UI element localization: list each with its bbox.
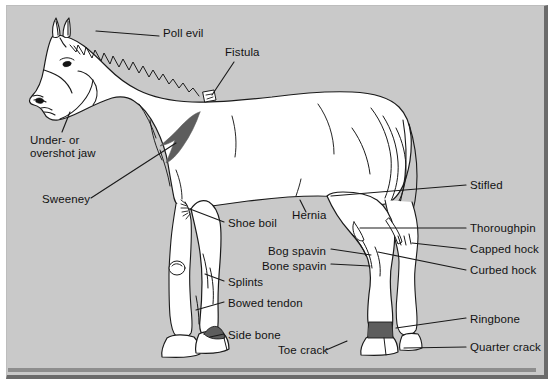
label-stifled: Stifled	[470, 179, 503, 192]
label-side-bone: Side bone	[228, 329, 281, 342]
horse-body-outline	[30, 35, 412, 209]
front-hoof-far	[162, 335, 200, 358]
label-bone-spavin: Bone spavin	[262, 260, 326, 273]
toe-crack-leader	[326, 341, 347, 350]
label-curbed-hock: Curbed hock	[470, 264, 536, 277]
sweeney-leader	[91, 143, 176, 198]
label-fistula: Fistula	[225, 46, 260, 59]
horse-ears	[53, 18, 71, 38]
label-thoroughpin: Thoroughpin	[470, 222, 536, 235]
label-shoe-boil: Shoe boil	[228, 217, 277, 230]
label-under-overshot-jaw: Under- or overshot jaw	[30, 134, 96, 160]
capped-hock-leader	[412, 243, 466, 249]
horse-unsoundness-figure: Poll evil Fistula Under- or overshot jaw…	[0, 0, 560, 392]
label-bog-spavin: Bog spavin	[268, 245, 326, 258]
label-poll-evil: Poll evil	[163, 27, 204, 40]
fistula-leader	[212, 62, 234, 95]
ringbone-dark	[368, 322, 393, 338]
label-ringbone: Ringbone	[470, 313, 520, 326]
bone-spavin-leader	[331, 264, 370, 266]
label-quarter-crack: Quarter crack	[470, 341, 541, 354]
label-splints: Splints	[228, 276, 263, 289]
label-bowed-tendon: Bowed tendon	[228, 297, 303, 310]
label-sweeney: Sweeney	[42, 193, 90, 206]
ground-shadow	[8, 368, 536, 372]
label-capped-hock: Capped hock	[470, 243, 539, 256]
horse-nostril	[36, 98, 44, 103]
label-hernia: Hernia	[292, 209, 326, 222]
label-toe-crack: Toe crack	[278, 344, 328, 357]
poll-evil-leader	[96, 31, 159, 36]
